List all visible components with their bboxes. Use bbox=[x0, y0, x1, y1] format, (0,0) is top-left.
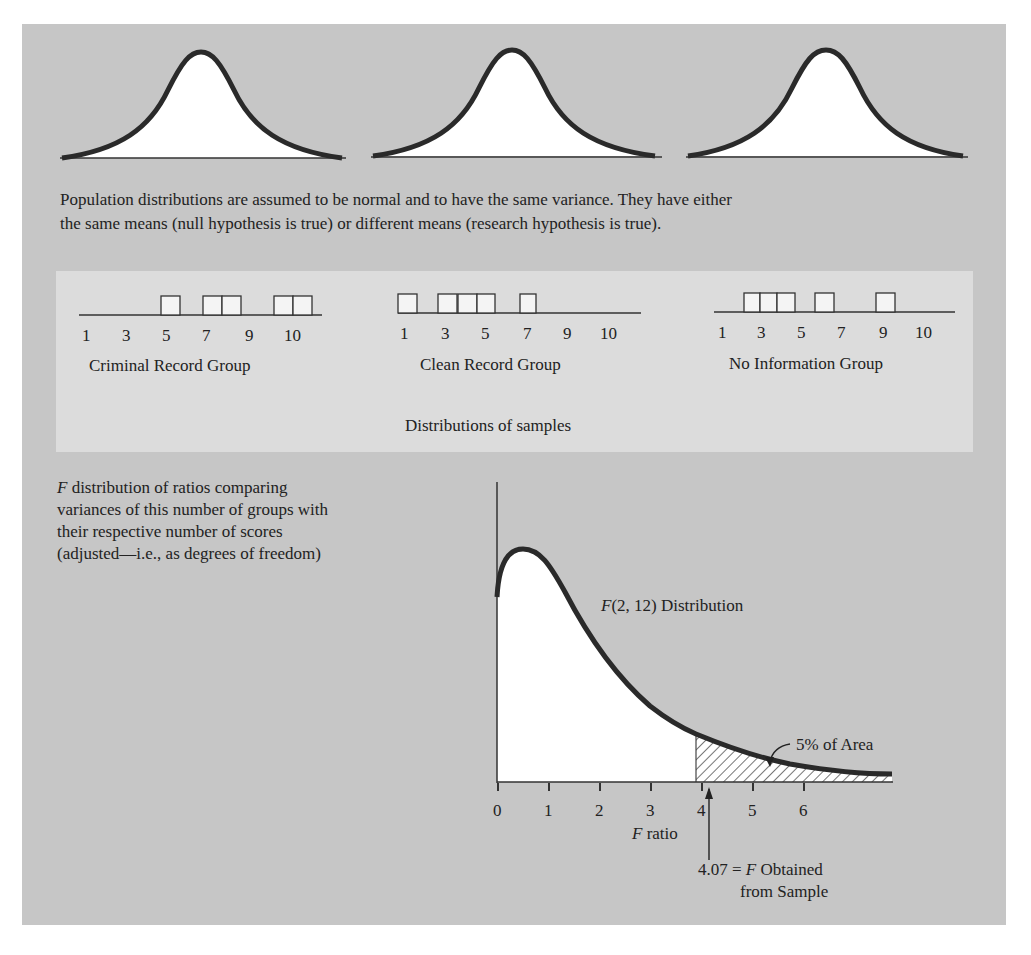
curve-label: F(2, 12) Distribution bbox=[601, 594, 743, 618]
area-label: 5% of Area bbox=[796, 733, 873, 757]
obtained-f-label-line2: from Sample bbox=[740, 880, 828, 904]
x-tick-label: 3 bbox=[646, 799, 655, 823]
x-tick-label: 0 bbox=[493, 799, 502, 823]
x-axis-ticks bbox=[498, 783, 804, 791]
x-tick-label: 2 bbox=[595, 799, 604, 823]
obtained-f-label-line1: 4.07 = F Obtained bbox=[698, 858, 823, 882]
x-tick-label: 5 bbox=[748, 799, 757, 823]
f-distribution-chart bbox=[0, 0, 1031, 955]
obtained-f-arrowhead bbox=[705, 787, 713, 799]
x-axis-label: F ratio bbox=[632, 822, 678, 846]
f-area-unshaded bbox=[497, 549, 696, 782]
x-tick-label: 6 bbox=[799, 799, 808, 823]
x-tick-label: 4 bbox=[697, 799, 706, 823]
x-tick-label: 1 bbox=[544, 799, 553, 823]
